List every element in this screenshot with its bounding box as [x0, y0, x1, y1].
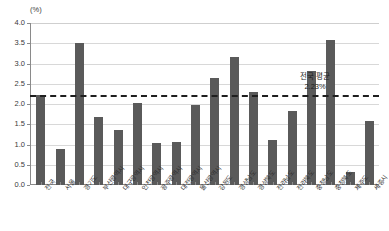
x-axis-tick-mark — [350, 182, 351, 185]
x-axis-tick-mark — [137, 182, 138, 185]
x-axis-tick-mark — [234, 182, 235, 185]
y-axis-tick-label: 1.0 — [3, 140, 25, 149]
bar — [75, 43, 84, 185]
x-axis-tick-mark — [292, 182, 293, 185]
y-axis-tick-mark — [27, 185, 30, 186]
y-axis-tick-mark — [27, 23, 30, 24]
average-line-value: 2.23% — [300, 82, 330, 92]
y-axis-tick-label: 0.5 — [3, 160, 25, 169]
x-axis-tick-mark — [369, 182, 370, 185]
x-axis-tick-mark — [60, 182, 61, 185]
x-axis-tick-mark — [176, 182, 177, 185]
y-axis-tick-mark — [27, 64, 30, 65]
x-axis-tick-mark — [118, 182, 119, 185]
x-axis: 전국서울경기도부산광역시대구광역시인천광역시광주광역시대전광역시울산광역시강원도… — [31, 186, 379, 231]
bar-series — [31, 23, 379, 185]
y-axis-tick-label: 3.0 — [3, 59, 25, 68]
y-axis-tick-mark — [27, 84, 30, 85]
bar — [36, 95, 45, 185]
x-axis-tick-mark — [311, 182, 312, 185]
y-axis-tick-label: 2.0 — [3, 99, 25, 108]
y-axis-tick-mark — [27, 104, 30, 105]
y-axis-unit-label: (%) — [30, 5, 42, 14]
average-line — [30, 95, 379, 97]
bar — [230, 57, 239, 185]
y-axis-tick-label: 3.5 — [3, 38, 25, 47]
bar — [56, 149, 65, 185]
x-axis-tick-mark — [79, 182, 80, 185]
y-axis-tick-mark — [27, 43, 30, 44]
y-axis-tick-label: 0.0 — [3, 180, 25, 189]
bar — [326, 40, 335, 185]
y-axis-tick-label: 1.5 — [3, 119, 25, 128]
y-axis-tick-label: 2.5 — [3, 79, 25, 88]
average-line-label: 전국 평균 2.23% — [300, 72, 330, 92]
x-axis-tick-mark — [195, 182, 196, 185]
y-axis-tick-mark — [27, 145, 30, 146]
y-axis-tick-mark — [27, 124, 30, 125]
x-axis-tick-mark — [253, 182, 254, 185]
y-axis-tick-mark — [27, 165, 30, 166]
average-line-title: 전국 평균 — [300, 72, 330, 82]
y-axis-tick-label: 4.0 — [3, 18, 25, 27]
